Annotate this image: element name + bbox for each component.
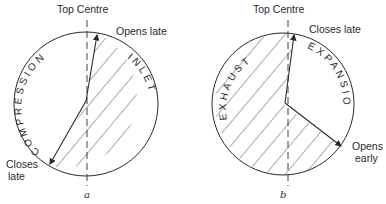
opens-late-label: Opens late [116, 25, 167, 37]
closes-late-label-line1: Closes [6, 158, 38, 170]
top-centre-label-b: Top Centre [253, 3, 305, 15]
top-centre-label-a: Top Centre [57, 3, 109, 15]
caption-b: b [280, 189, 286, 200]
expansion-label: EXPANSION [0, 0, 352, 108]
caption-a: a [84, 189, 90, 200]
closes-late-label-b: Closes late [309, 23, 361, 35]
valve-timing-diagrams: Top Centre Opens late Closes late COMPRE… [0, 0, 386, 204]
diagram-a: Top Centre Opens late Closes late COMPRE… [6, 3, 167, 200]
compression-label: COMPRESSION [12, 50, 48, 158]
closes-late-label-line2: late [8, 170, 25, 182]
opens-early-label-line1: Opens [352, 140, 383, 152]
opens-early-label-line2: early [355, 152, 379, 164]
